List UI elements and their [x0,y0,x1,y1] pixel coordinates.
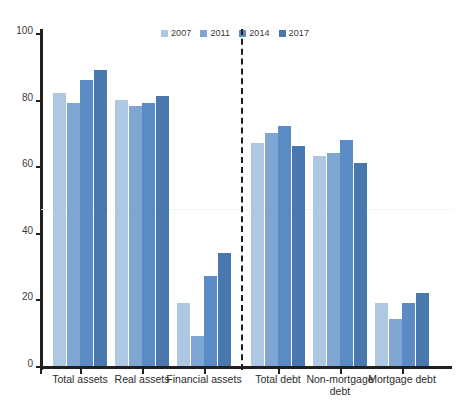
x-axis-line [40,366,452,369]
bar [191,336,204,366]
bar [80,80,93,366]
bar-group [115,33,169,366]
y-tick-label: 20 [22,292,33,302]
bar-group [375,33,429,366]
bar [416,293,429,366]
category-label: Mortgage debt [357,373,447,385]
y-tick-mark [36,166,41,168]
bar [129,106,142,366]
bar [94,70,107,366]
y-tick-mark [36,233,41,235]
bar [115,100,128,366]
bar [142,103,155,366]
bar [375,303,388,366]
y-tick-label: 80 [22,93,33,103]
y-tick-mark [36,299,41,301]
bar-group [313,33,367,366]
bar [327,153,340,366]
bar-chart: 2007201120142017 020406080100 Total asse… [0,0,458,414]
bar [313,156,326,366]
bar [53,93,66,366]
bar [278,126,291,366]
y-tick-mark [36,33,41,35]
y-tick-label: 0 [27,359,33,369]
bar-group [177,33,231,366]
bar [292,146,305,366]
bar [156,96,169,366]
bar [251,143,264,366]
bar [354,163,367,366]
bar [340,140,353,366]
bar [265,133,278,366]
bar-group [251,33,305,366]
plot-area: 020406080100 [40,33,452,366]
bar [218,253,231,366]
bar [204,276,217,366]
bar [177,303,190,366]
y-tick-mark [36,100,41,102]
bar [67,103,80,366]
bar [402,303,415,366]
y-axis-line [40,29,43,370]
y-tick-label: 100 [16,26,33,36]
bar [389,319,402,366]
y-tick-mark [36,366,41,368]
assets-debt-divider [241,29,243,370]
bar-group [53,33,107,366]
y-tick-label: 40 [22,226,33,236]
y-tick-label: 60 [22,159,33,169]
